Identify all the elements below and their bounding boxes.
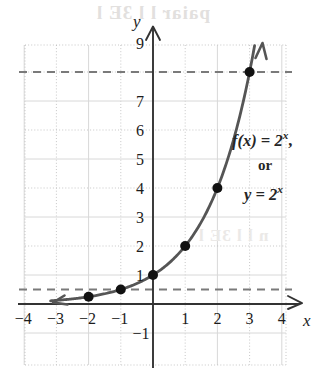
tick-label: −1 bbox=[132, 325, 149, 342]
tick-label: 5 bbox=[136, 151, 144, 168]
data-point bbox=[180, 241, 190, 251]
tick-label: 2 bbox=[136, 238, 144, 255]
function-curve bbox=[51, 43, 267, 305]
function-expression-main: f(x) = 2 bbox=[232, 131, 283, 150]
tick-label: 1 bbox=[181, 310, 189, 327]
tick-label: −1 bbox=[111, 310, 128, 327]
function-label-line-1: f(x) = 2x, bbox=[232, 129, 292, 151]
data-point bbox=[148, 270, 158, 280]
tick-label: 9 bbox=[136, 35, 144, 52]
function-expression-alt: y = 2 bbox=[244, 185, 277, 204]
tick-label: 6 bbox=[136, 122, 144, 139]
data-point bbox=[212, 183, 222, 193]
tick-label: 3 bbox=[136, 209, 144, 226]
data-point bbox=[116, 285, 126, 295]
tick-label: −2 bbox=[79, 310, 96, 327]
graph-figure: paiar l l 3E l n l l 3E l −4−3−2−1123497… bbox=[0, 0, 333, 382]
function-trailing-comma: , bbox=[288, 131, 292, 150]
data-points bbox=[84, 67, 255, 302]
function-exponent-alt: x bbox=[277, 183, 283, 195]
function-label-line-3: y = 2x bbox=[244, 183, 283, 205]
function-label-connector: or bbox=[258, 157, 272, 174]
tick-label: 2 bbox=[213, 310, 221, 327]
tick-label: 1 bbox=[136, 267, 144, 284]
tick-label: 4 bbox=[278, 310, 286, 327]
data-point bbox=[84, 292, 94, 302]
tick-label: 7 bbox=[136, 93, 144, 110]
y-axis-label: y bbox=[133, 12, 141, 32]
tick-label: 3 bbox=[246, 310, 254, 327]
coordinate-plane-plot: −4−3−2−1123497654321−1 bbox=[0, 0, 333, 382]
x-axis-label: x bbox=[303, 311, 311, 331]
tick-label: −3 bbox=[47, 310, 64, 327]
tick-label: 4 bbox=[136, 180, 144, 197]
tick-label: −4 bbox=[15, 310, 32, 327]
data-point bbox=[245, 67, 255, 77]
reference-dashed-lines bbox=[19, 72, 292, 290]
